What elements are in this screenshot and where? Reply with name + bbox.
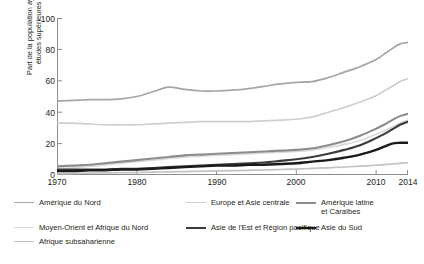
x-tick-1990: 1990: [197, 177, 237, 187]
legend-label-asie-du-sud: Asie du Sud: [321, 223, 362, 232]
legend-item-moyen-orient-afrique-du-nord[interactable]: Moyen-Orient et Afrique du Nord: [14, 223, 148, 232]
x-tick-2000: 2000: [276, 177, 316, 187]
legend-swatch-amerique-latine-caraibes: [296, 202, 316, 204]
y-tick-20: 20: [33, 139, 55, 149]
legend-label-europe-asie-centrale: Europe et Asie centrale: [211, 198, 290, 207]
x-tick-1980: 1980: [117, 177, 157, 187]
legend-item-afrique-subsaharienne[interactable]: Afrique subsaharienne: [14, 237, 115, 246]
legend-swatch-moyen-orient-afrique-du-nord: [14, 227, 34, 228]
y-tick-40: 40: [33, 108, 55, 118]
legend-label-afrique-subsaharienne: Afrique subsaharienne: [39, 237, 115, 246]
y-tick-60: 60: [33, 76, 55, 86]
legend-item-amerique-du-nord[interactable]: Amérique du Nord: [14, 198, 101, 207]
axis-lines: [57, 18, 408, 175]
legend-swatch-amerique-du-nord: [14, 202, 34, 203]
series-line: [57, 120, 408, 169]
y-tick-100: 100: [33, 14, 55, 24]
legend-swatch-afrique-subsaharienne: [14, 241, 34, 242]
series-line: [57, 42, 408, 101]
legend-label-moyen-orient-afrique-du-nord: Moyen-Orient et Afrique du Nord: [39, 223, 148, 232]
series-lines: [57, 42, 408, 173]
legend-item-amerique-latine-caraibes[interactable]: Amérique latine et Caraïbes: [296, 198, 374, 217]
legend-item-europe-asie-centrale[interactable]: Europe et Asie centrale: [186, 198, 290, 207]
y-tick-80: 80: [33, 45, 55, 55]
x-tick-1970: 1970: [37, 177, 77, 187]
legend-label-amerique-du-nord: Amérique du Nord: [39, 198, 101, 207]
plot-area: [57, 18, 408, 175]
chart-legend: Amérique du Nord Europe et Asie centrale…: [0, 196, 424, 264]
legend-swatch-asie-est-region-pacifique: [186, 227, 206, 229]
chart-figure: Part de la population ayant achevé des é…: [0, 0, 424, 264]
x-tick-2014: 2014: [388, 177, 424, 187]
legend-swatch-europe-asie-centrale: [186, 202, 206, 203]
line-chart-svg: [57, 18, 408, 175]
legend-swatch-asie-du-sud: [296, 227, 316, 229]
legend-item-asie-du-sud[interactable]: Asie du Sud: [296, 223, 362, 232]
series-line: [57, 78, 408, 124]
legend-label-amerique-latine-caraibes: Amérique latine et Caraïbes: [321, 198, 374, 217]
x-axis-tick-labels: 1970 1980 1990 2000 2010 2014: [0, 177, 424, 191]
